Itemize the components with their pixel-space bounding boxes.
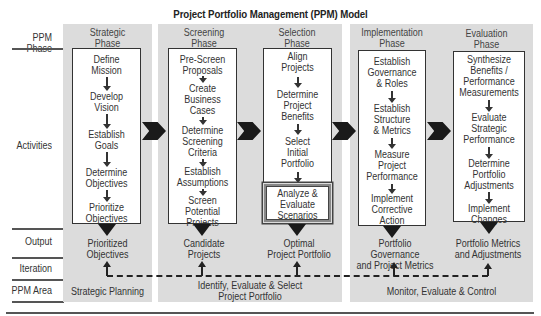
down-arrow-icon (202, 159, 204, 164)
activity-determine-objectives: Determine Objectives (76, 167, 136, 189)
activity-box-selection: Align Projects Determine Project Benefit… (263, 48, 332, 224)
down-arrow-icon (488, 192, 490, 201)
row-label-output: Output (7, 236, 52, 247)
activity-determine-screening-criteria: Determine Screening Criteria (172, 125, 232, 158)
activity-prioritize-objectives: Prioritize Objectives (76, 202, 136, 224)
down-arrow-icon (106, 190, 108, 199)
up-arrow-icon (198, 261, 206, 267)
feedback-riser (487, 268, 489, 276)
activity-select-initial-portfolio: Select Initial Portfolio (267, 136, 327, 169)
down-arrow-icon (391, 91, 393, 100)
row-divider (12, 228, 64, 230)
down-triangle-icon (383, 226, 401, 238)
activity-establish-assumptions: Establish Assumptions (172, 166, 232, 188)
down-arrow-icon (297, 124, 299, 132)
down-arrow-icon (202, 117, 204, 122)
row-divider (12, 48, 64, 50)
activity-box-screening: Pre-Screen Proposals Create Business Cas… (168, 48, 237, 224)
feedback-riser (106, 266, 108, 276)
up-arrow-icon (103, 261, 111, 267)
row-label-activities: Activities (7, 140, 52, 151)
activity-synthesize-benefits: Synthesize Benefits / Performance Measur… (458, 54, 521, 98)
activity-evaluate-strategic-performance: Evaluate Strategic Performance (458, 112, 521, 145)
feedback-riser (393, 267, 395, 276)
down-arrow-icon (202, 76, 204, 80)
up-arrow-icon (293, 261, 301, 267)
down-arrow-icon (297, 172, 299, 180)
down-triangle-icon (288, 224, 306, 236)
down-arrow-icon (488, 147, 490, 156)
activity-box-strategic: Define Mission Develop Vision Establish … (72, 48, 141, 224)
activity-implement-corrective-action: Implement Corrective Action (362, 193, 421, 226)
down-arrow-icon (488, 100, 490, 109)
down-triangle-icon (193, 224, 211, 236)
output-selection: Optimal Project Portfolio (257, 238, 342, 260)
output-screening: Candidate Projects (163, 238, 246, 260)
down-arrow-icon (391, 184, 393, 191)
up-arrow-icon (484, 263, 492, 269)
bottom-rule (6, 312, 534, 314)
row-divider (12, 257, 64, 259)
down-arrow-icon (106, 77, 108, 88)
phase-title-screening: Screening Phase (163, 27, 246, 49)
phase-title-implementation: Implementation Phase (354, 27, 430, 49)
output-strategic: Prioritized Objectives (67, 238, 147, 260)
activity-analyze-evaluate-scenarios: Analyze & Evaluate Scenarios (270, 188, 325, 221)
down-arrow-icon (106, 114, 108, 126)
activity-establish-goals: Establish Goals (76, 129, 136, 151)
activity-create-business-cases: Create Business Cases (172, 83, 232, 116)
down-triangle-icon (98, 224, 116, 236)
activity-box-implementation: Establish Governance & Roles Establish S… (358, 50, 426, 226)
down-arrow-icon (297, 77, 299, 85)
activity-pre-screen-proposals: Pre-Screen Proposals (172, 54, 232, 76)
activity-measure-project-performance: Measure Project Performance (362, 149, 421, 182)
area-strategic-planning: Strategic Planning (67, 286, 147, 297)
up-arrow-icon (390, 262, 398, 268)
feedback-riser (296, 266, 298, 276)
down-arrow-icon (391, 138, 393, 146)
activity-determine-project-benefits: Determine Project Benefits (267, 89, 327, 122)
output-evaluation: Portfolio Metrics and Adjustments (448, 238, 529, 260)
area-monitor-evaluate-control: Monitor, Evaluate & Control (359, 286, 524, 297)
row-divider (12, 301, 64, 303)
row-label-ppm-phase: PPM Phase (7, 32, 52, 54)
activity-establish-governance-roles: Establish Governance & Roles (362, 56, 421, 89)
phase-title-evaluation: Evaluation Phase (445, 28, 529, 50)
activity-box-evaluation: Synthesize Benefits / Performance Measur… (453, 51, 525, 222)
highlighted-activity-box: Analyze & Evaluate Scenarios (266, 186, 329, 220)
down-triangle-icon (480, 222, 498, 234)
activity-establish-structure-metrics: Establish Structure & Metrics (362, 103, 421, 136)
activity-define-mission: Define Mission (76, 54, 136, 76)
feedback-riser (201, 266, 203, 276)
phase-title-strategic: Strategic Phase (67, 27, 147, 49)
diagram-title: Project Portfolio Management (PPM) Model (32, 8, 508, 20)
row-divider (12, 279, 64, 281)
area-identify-evaluate-select: Identify, Evaluate & Select Project Port… (167, 280, 333, 302)
activity-align-projects: Align Projects (267, 51, 327, 73)
row-label-ppm-area: PPM Area (7, 285, 52, 296)
row-label-iteration: Iteration (7, 263, 52, 274)
activity-determine-portfolio-adjustments: Determine Portfolio Adjustments (458, 158, 521, 191)
down-arrow-icon (106, 152, 108, 164)
down-arrow-icon (202, 189, 204, 193)
phase-title-selection: Selection Phase (257, 27, 338, 49)
activity-develop-vision: Develop Vision (76, 91, 136, 113)
